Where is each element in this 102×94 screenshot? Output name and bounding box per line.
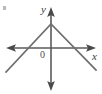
origin-label: 0 [40,49,45,60]
x-axis-label: x [91,50,97,62]
math-figure: y x 0 [0,0,102,94]
y-axis-label: y [40,3,46,15]
coordinate-plane-graphic: y x 0 [0,0,102,94]
scan-artifact-speck [3,6,6,10]
